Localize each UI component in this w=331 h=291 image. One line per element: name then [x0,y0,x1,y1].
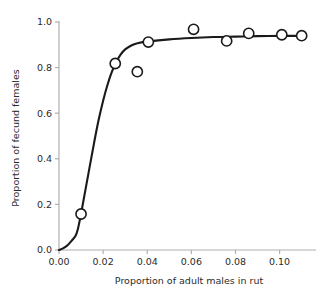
scatter-plot: 0.00.20.40.60.81.0 0.000.020.040.060.080… [0,0,331,291]
x-axis-tick-label: 0.10 [269,256,290,267]
y-axis-tick-label: 0.0 [37,244,52,255]
y-axis-tick-label: 0.8 [37,62,52,73]
y-axis-tick-label: 0.2 [37,199,52,210]
data-point-marker [222,36,232,46]
chart-figure: 0.00.20.40.60.81.0 0.000.020.040.060.080… [0,0,331,291]
x-axis-tick-label: 0.00 [48,256,69,267]
y-axis-title: Proportion of fecund females [10,69,21,206]
x-axis-tick-label: 0.04 [137,256,158,267]
data-point-marker [244,28,254,38]
x-axis-tick-label: 0.02 [93,256,114,267]
x-axis-tick-label: 0.08 [225,256,246,267]
x-axis-tick-label: 0.06 [181,256,202,267]
y-axis-tick-label: 1.0 [37,16,52,27]
data-point-marker [277,30,287,40]
data-point-marker [188,24,198,34]
data-point-marker [110,58,120,68]
data-point-marker [143,37,153,47]
data-point-marker [297,31,307,41]
y-axis-tick-label: 0.4 [37,153,52,164]
data-point-marker [76,209,86,219]
data-point-marker [132,67,142,77]
x-axis-title: Proportion of adult males in rut [115,275,264,286]
y-axis-tick-label: 0.6 [37,108,52,119]
